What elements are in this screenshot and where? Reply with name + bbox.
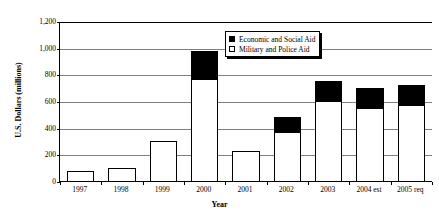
- bar-segment-military-aid[interactable]: [398, 105, 425, 182]
- legend-swatch-icon: [229, 46, 235, 52]
- bar-segment-military-aid[interactable]: [232, 151, 259, 182]
- bar-group[interactable]: [150, 141, 177, 182]
- x-axis-tick-label: 2004 est: [348, 185, 389, 194]
- y-axis-tick-label: 600: [26, 98, 56, 106]
- y-axis-tick-label: 200: [26, 151, 56, 159]
- x-axis-tick-label: 1999: [142, 185, 183, 194]
- y-axis-tickmark: [57, 102, 60, 103]
- x-axis-tick-label: 1998: [100, 185, 141, 194]
- y-axis-tickmark: [57, 22, 60, 23]
- bar-group[interactable]: [232, 151, 259, 182]
- y-axis-tick-label: 1,000: [26, 45, 56, 53]
- x-axis-tick-label: 2000: [183, 185, 224, 194]
- x-axis-tick-label: 2001: [224, 185, 265, 194]
- bar-segment-economic-aid[interactable]: [191, 51, 218, 79]
- y-axis-tickmark: [57, 49, 60, 50]
- y-axis-tick-labels: 1,2001,0008006004002000: [26, 22, 56, 182]
- y-axis-tick-label: 1,200: [26, 18, 56, 26]
- bar-segment-military-aid[interactable]: [356, 108, 383, 182]
- x-axis-tickmark: [432, 182, 433, 185]
- y-axis-tickmark: [57, 75, 60, 76]
- bar-group[interactable]: [108, 168, 135, 182]
- y-axis-tickmark: [57, 129, 60, 130]
- x-axis-tick-label: 2003: [307, 185, 348, 194]
- bar-segment-military-aid[interactable]: [108, 168, 135, 182]
- legend-item[interactable]: Economic and Social Aid: [229, 34, 315, 44]
- x-axis-title: Year: [0, 200, 439, 209]
- x-axis-tick-label: 1997: [59, 185, 100, 194]
- y-axis-tick-label: 400: [26, 125, 56, 133]
- bar-segment-economic-aid[interactable]: [398, 85, 425, 105]
- bar-segment-military-aid[interactable]: [274, 132, 301, 182]
- y-axis-tick-label: 800: [26, 71, 56, 79]
- x-axis-tick-label: 2005 req: [390, 185, 431, 194]
- x-axis-line: [60, 181, 432, 182]
- bar-segment-economic-aid[interactable]: [274, 117, 301, 132]
- legend-label: Military and Police Aid: [239, 45, 310, 54]
- bar-segment-military-aid[interactable]: [315, 101, 342, 182]
- bar-chart: U.S. Dollars (millions) 1,2001,000800600…: [0, 0, 439, 222]
- x-axis-tick-labels: 19971998199920002001200220032004 est2005…: [59, 185, 431, 197]
- y-axis-tick-label: 0: [26, 178, 56, 186]
- chart-legend: Economic and Social AidMilitary and Poli…: [225, 31, 320, 57]
- bar-group[interactable]: [191, 51, 218, 182]
- bar-segment-economic-aid[interactable]: [315, 81, 342, 100]
- y-axis-tickmark: [57, 155, 60, 156]
- legend-label: Economic and Social Aid: [239, 35, 315, 44]
- legend-item[interactable]: Military and Police Aid: [229, 44, 315, 54]
- bar-segment-military-aid[interactable]: [191, 79, 218, 182]
- bar-segment-economic-aid[interactable]: [356, 88, 383, 108]
- x-axis-tick-label: 2002: [266, 185, 307, 194]
- bar-group[interactable]: [356, 88, 383, 182]
- bar-segment-military-aid[interactable]: [150, 141, 177, 182]
- bar-group[interactable]: [398, 85, 425, 182]
- bar-group[interactable]: [315, 81, 342, 182]
- bar-group[interactable]: [274, 117, 301, 182]
- legend-swatch-icon: [229, 36, 235, 42]
